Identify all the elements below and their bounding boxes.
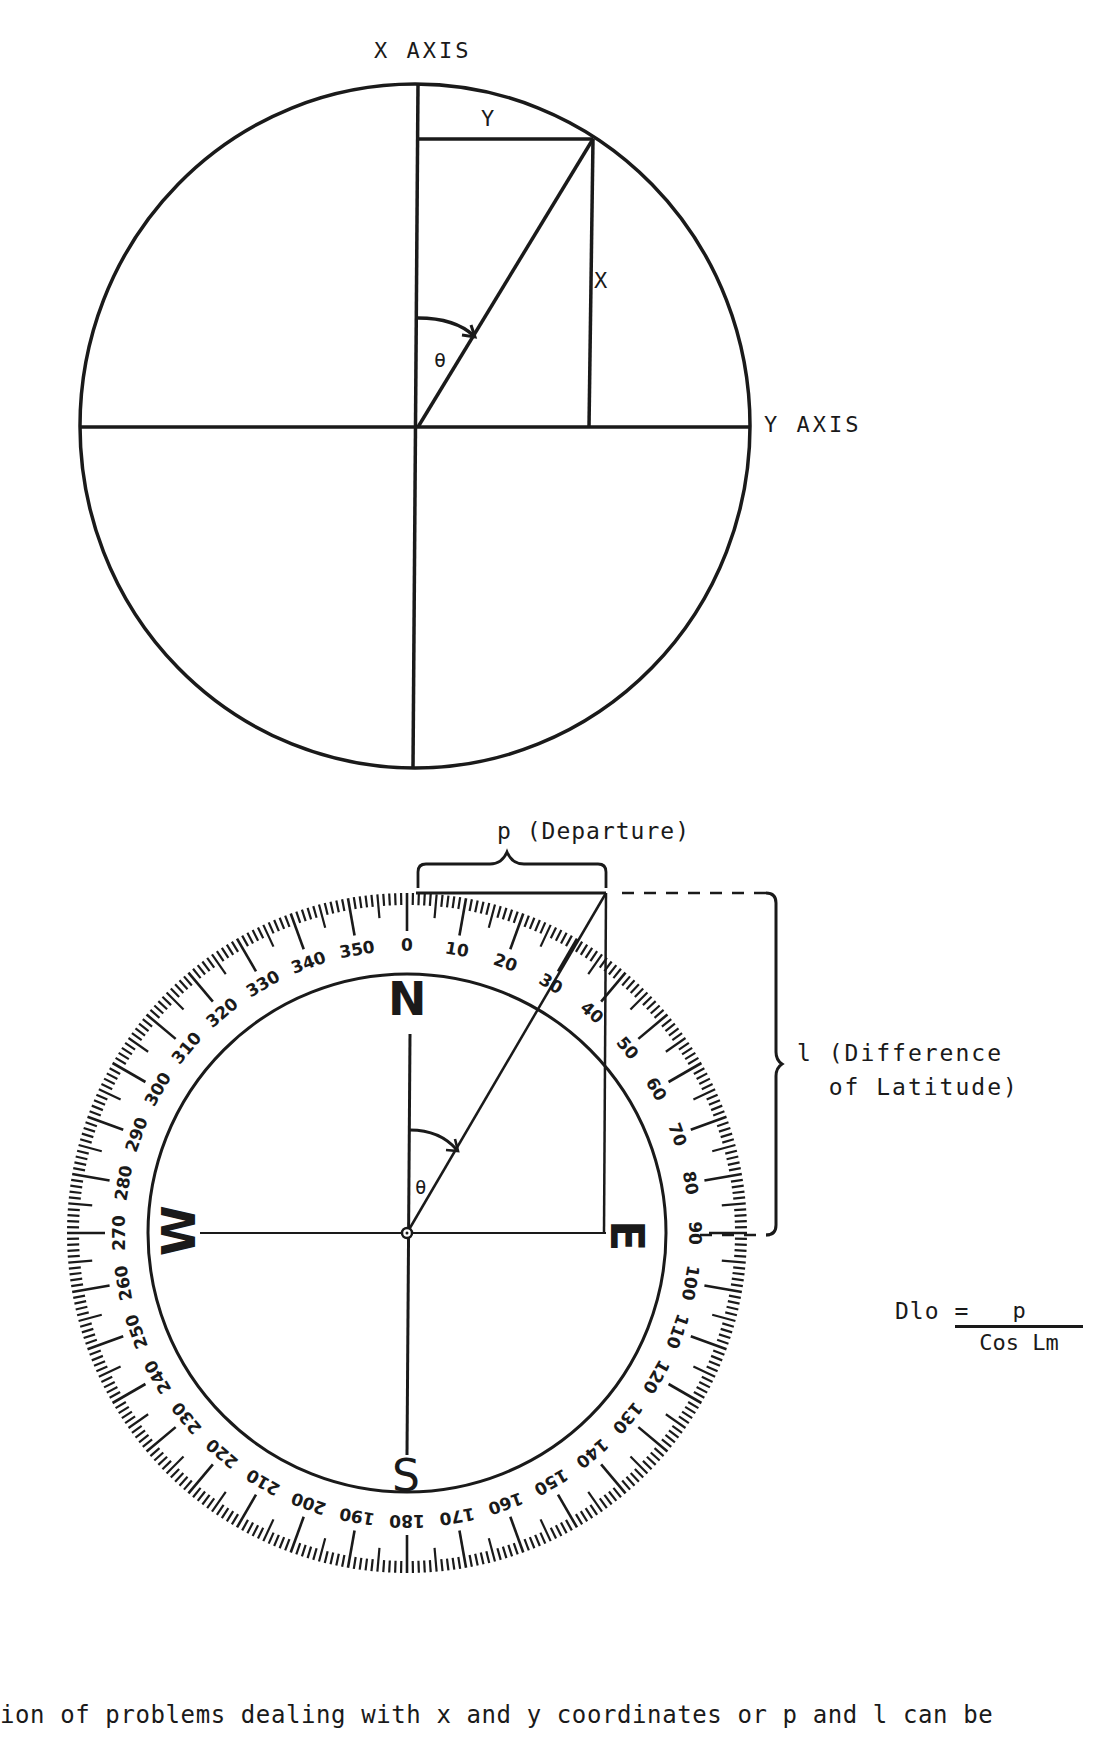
north-south-line xyxy=(407,1034,410,1455)
bearing-label: 200 xyxy=(288,1488,328,1519)
compass-tick xyxy=(424,1561,425,1573)
compass-tick xyxy=(613,969,621,978)
compass-tick xyxy=(441,1559,442,1571)
compass-tick xyxy=(489,1538,495,1561)
compass-tick xyxy=(69,1197,81,1198)
compass-tick xyxy=(122,1048,132,1055)
compass-tick xyxy=(202,961,209,971)
compass-tick xyxy=(586,1508,593,1518)
compass-tick xyxy=(631,1473,639,1482)
compass-tick xyxy=(722,1323,734,1326)
compass-tick xyxy=(530,1537,534,1548)
compass-tick xyxy=(481,1553,484,1565)
bearing-label: 190 xyxy=(338,1504,377,1530)
compass-tick xyxy=(581,945,587,955)
compass-tick xyxy=(150,1010,159,1018)
compass-tick xyxy=(150,1448,159,1456)
compass-tick xyxy=(82,1329,93,1333)
compass-tick xyxy=(202,1495,209,1505)
compass-tick xyxy=(655,1448,664,1456)
compass-tick xyxy=(672,1033,682,1040)
compass-tick xyxy=(728,1301,740,1303)
compass-tick xyxy=(459,1530,466,1567)
bearing-label: 280 xyxy=(110,1164,136,1203)
bearing-label: 50 xyxy=(612,1032,643,1063)
compass-tick xyxy=(665,1024,674,1031)
compass-tick xyxy=(435,1548,437,1572)
compass-tick xyxy=(600,1498,607,1508)
compass-tick xyxy=(74,1162,86,1164)
compass-tick xyxy=(72,1174,109,1181)
compass-tick xyxy=(647,1001,656,1009)
compass-tick xyxy=(377,894,379,918)
bearing-label: 110 xyxy=(662,1311,693,1351)
compass-tick xyxy=(735,1215,747,1216)
compass-tick xyxy=(319,1538,325,1561)
compass-tick xyxy=(158,1457,167,1465)
compass-tick xyxy=(348,898,355,935)
compass-tick xyxy=(556,1525,561,1536)
compass-tick xyxy=(626,1477,634,1486)
compass-tick xyxy=(609,965,616,974)
compass-tick xyxy=(735,1250,747,1251)
compass-tick xyxy=(70,1273,82,1274)
latitude-brace xyxy=(766,893,782,1235)
compass-tick xyxy=(366,896,367,908)
compass-tick xyxy=(733,1273,745,1274)
compass-tick xyxy=(302,910,306,921)
compass-tick xyxy=(88,1336,124,1349)
compass-tick xyxy=(175,984,183,993)
compass-tick xyxy=(154,1452,163,1460)
compass-tick xyxy=(717,1340,728,1344)
compass-tick xyxy=(217,1505,224,1515)
compass-tick xyxy=(631,984,639,993)
compass-tick xyxy=(711,1356,722,1360)
compass-tick xyxy=(729,1296,741,1298)
compass-tick xyxy=(116,1402,126,1408)
theta-label-compass: θ xyxy=(415,1176,426,1198)
compass-tick xyxy=(688,1058,698,1064)
compass-tick xyxy=(76,1157,88,1160)
compass-tick xyxy=(704,1285,741,1292)
compass-tick xyxy=(193,1488,201,1497)
compass-tick xyxy=(453,896,455,908)
compass-tick xyxy=(630,993,647,1010)
compass-tick xyxy=(74,1301,86,1303)
compass-tick xyxy=(313,1548,316,1560)
compass-tick xyxy=(566,1520,572,1530)
compass-tick xyxy=(247,1523,253,1534)
compass-tick xyxy=(354,1557,356,1569)
bearing-label: 150 xyxy=(530,1465,571,1500)
compass-tick xyxy=(688,1402,698,1408)
compass-tick xyxy=(682,1048,692,1055)
bearing-label: 270 xyxy=(109,1215,129,1251)
compass-tick xyxy=(80,1139,92,1142)
compass-tick xyxy=(707,1095,718,1100)
footer-line-1: ion of problems dealing with x and y coo… xyxy=(0,1698,1038,1733)
compass-tick xyxy=(94,1361,105,1366)
compass-tick xyxy=(222,948,229,958)
compass-tick xyxy=(662,1019,671,1027)
compass-tick xyxy=(198,965,205,974)
compass-tick xyxy=(713,1351,724,1355)
compass-tick xyxy=(154,1005,163,1013)
compass-tick xyxy=(171,988,179,997)
compass-tick xyxy=(371,1559,372,1571)
compass-tick xyxy=(139,1024,148,1031)
compass-tick xyxy=(453,1558,455,1570)
compass-tick xyxy=(712,1315,735,1321)
compass-tick xyxy=(514,912,518,923)
bearing-label: 350 xyxy=(338,936,377,962)
compass-tick xyxy=(540,922,545,933)
compass-tick xyxy=(258,927,263,938)
compass-tick xyxy=(481,902,484,914)
compass-tick xyxy=(70,1279,82,1281)
compass-tick xyxy=(110,1392,120,1398)
compass-tick xyxy=(68,1209,80,1210)
compass-tick xyxy=(489,905,495,928)
compass-tick xyxy=(302,1545,306,1556)
compass-tick xyxy=(435,894,437,918)
compass-tick xyxy=(702,1084,713,1089)
cardinal-east: E xyxy=(600,1220,654,1251)
compass-theta-arc xyxy=(410,1130,457,1150)
